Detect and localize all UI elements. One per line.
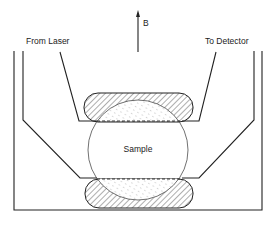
arrowhead-icon <box>136 10 140 17</box>
output-label: To Detector <box>205 36 249 46</box>
source-label: From Laser <box>26 36 70 46</box>
diagram-canvas: B From Laser To Detector Sample <box>0 0 274 227</box>
field-label: B <box>143 18 149 28</box>
inner-wall-right <box>182 51 254 178</box>
sample-label: Sample <box>124 144 153 154</box>
magnetic-field-arrow <box>136 10 140 52</box>
